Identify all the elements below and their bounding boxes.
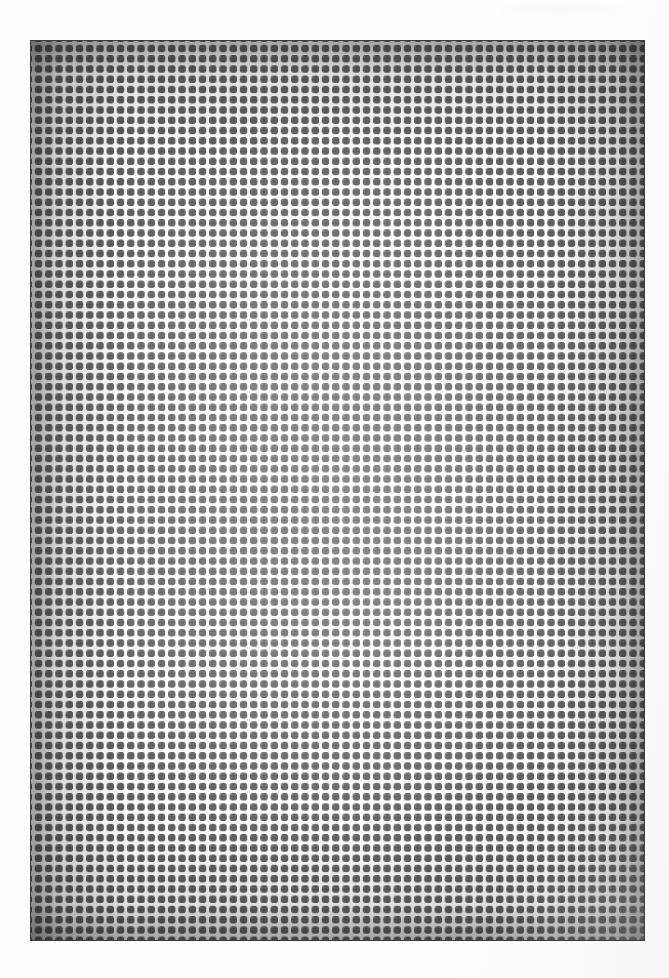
mesh-dot-gain-overlay [30, 40, 645, 941]
page-canvas [0, 0, 669, 978]
halftone-mesh-plate [30, 40, 645, 941]
scan-smudge-artifact [498, 1, 624, 17]
